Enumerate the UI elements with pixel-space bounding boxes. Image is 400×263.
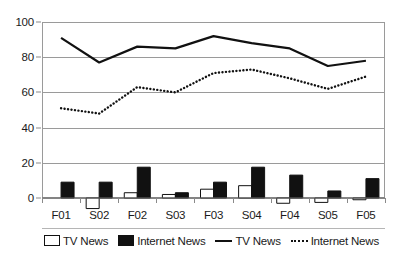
y-axis-tick-label: 60 — [22, 86, 34, 98]
x-axis-tick-mark — [42, 198, 43, 203]
line-solid-series — [61, 36, 366, 66]
legend-item-label: TV News — [63, 235, 108, 247]
legend-item[interactable]: Internet News — [118, 235, 205, 247]
x-axis-tick-mark — [271, 198, 272, 203]
x-axis-tick-label: S05 — [318, 209, 338, 221]
y-axis-tick-mark — [36, 22, 41, 23]
y-axis-tick-label: 100 — [15, 16, 34, 28]
x-axis-tick-mark — [385, 198, 386, 203]
y-axis-tick-mark — [36, 162, 41, 163]
y-axis-tick-label: 40 — [22, 122, 34, 134]
x-axis-tick-label: S04 — [242, 209, 262, 221]
filled-bar-icon — [118, 235, 134, 246]
y-axis: 020406080100 — [0, 22, 40, 198]
x-axis-tick-label: F04 — [280, 209, 299, 221]
open-bar-icon — [44, 235, 60, 246]
legend-item-label: Internet News — [137, 235, 205, 247]
legend-item[interactable]: Internet News — [291, 235, 379, 247]
x-axis-tick-label: F05 — [356, 209, 375, 221]
line-dotted-series — [61, 70, 366, 114]
x-axis-tick-label: F02 — [128, 209, 147, 221]
y-axis-tick-mark — [36, 127, 41, 128]
chart-container: 020406080100 F01S02F02S03F03S04F04S05F05… — [0, 0, 400, 263]
x-axis-tick-mark — [194, 198, 195, 203]
solid-line-icon — [215, 240, 232, 242]
x-axis-tick-mark — [118, 198, 119, 203]
line-series-layer — [42, 22, 385, 198]
legend-item-label: Internet News — [311, 235, 379, 247]
y-axis-tick-mark — [36, 92, 41, 93]
x-axis-tick-label: S02 — [89, 209, 109, 221]
x-axis-tick-mark — [347, 198, 348, 203]
x-axis-tick-label: F01 — [51, 209, 70, 221]
y-axis-tick-mark — [36, 57, 41, 58]
y-axis-tick-label: 80 — [22, 51, 34, 63]
x-axis-tick-mark — [309, 198, 310, 203]
legend-item[interactable]: TV News — [44, 235, 108, 247]
y-axis-tick-label: 0 — [28, 192, 34, 204]
x-axis-tick-mark — [233, 198, 234, 203]
legend-item-label: TV News — [235, 235, 280, 247]
x-axis-tick-label: F03 — [204, 209, 223, 221]
dotted-line-icon — [291, 240, 308, 242]
y-axis-tick-mark — [36, 198, 41, 199]
x-axis-tick-label: S03 — [165, 209, 185, 221]
x-axis-tick-mark — [156, 198, 157, 203]
y-axis-tick-label: 20 — [22, 157, 34, 169]
legend-item[interactable]: TV News — [215, 235, 280, 247]
chart-legend: TV NewsInternet NewsTV NewsInternet News — [42, 228, 385, 252]
x-axis-tick-mark — [80, 198, 81, 203]
x-axis: F01S02F02S03F03S04F04S05F05 — [42, 198, 385, 224]
